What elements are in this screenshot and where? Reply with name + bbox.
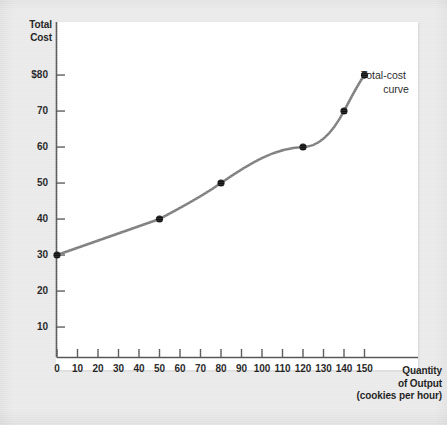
x-axis-title-line3: (cookies per hour) (306, 390, 442, 403)
x-axis-title-line2: of Output (306, 378, 442, 391)
y-tick-label-60: 60 (6, 141, 48, 152)
data-point (340, 107, 347, 114)
y-tick-label-50: 50 (6, 177, 48, 188)
x-axis-ticks (57, 349, 365, 357)
curve-annotation-line2: curve (361, 82, 441, 96)
y-tick-label-20: 20 (6, 285, 48, 296)
data-point-markers (53, 71, 368, 258)
y-tick-label-80: $80 (6, 69, 48, 80)
x-axis-title: Quantity of Output (cookies per hour) (306, 365, 442, 403)
y-axis-title-line1: Total (4, 19, 52, 32)
curve-annotation-line1: Total-cost (361, 69, 406, 81)
y-tick-label-10: 10 (6, 321, 48, 332)
x-axis-title-line1: Quantity (306, 365, 442, 378)
data-point (299, 143, 306, 150)
data-point (217, 179, 224, 186)
y-axis-ticks (56, 75, 65, 327)
curve-annotation-label: Total-cost curve (361, 68, 441, 96)
data-point (53, 251, 60, 258)
y-tick-label-40: 40 (6, 213, 48, 224)
y-tick-label-70: 70 (6, 105, 48, 116)
y-tick-label-30: 30 (6, 249, 48, 260)
y-axis-title-line2: Cost (4, 32, 52, 45)
y-axis-title: Total Cost (4, 19, 52, 44)
total-cost-chart (0, 0, 447, 425)
data-point (156, 215, 163, 222)
total-cost-curve (57, 75, 365, 255)
